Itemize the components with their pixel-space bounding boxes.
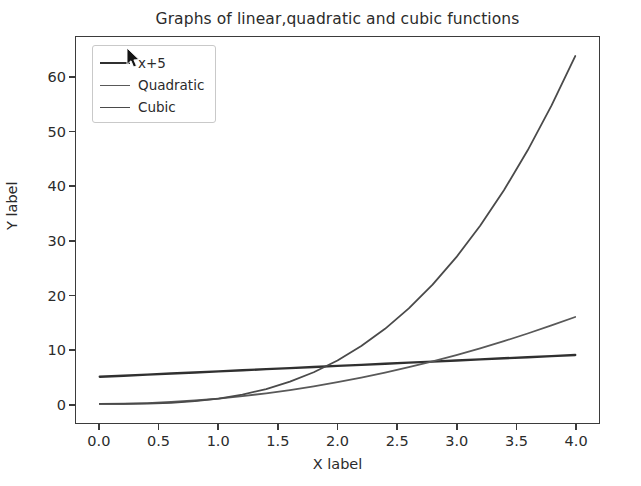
x-tick-label: 4.0 bbox=[546, 433, 606, 449]
legend-label-linear: x+5 bbox=[138, 55, 166, 71]
y-tick-label: 40 bbox=[26, 178, 66, 194]
x-tick-label: 1.5 bbox=[248, 433, 308, 449]
x-tick-label: 2.0 bbox=[308, 433, 368, 449]
x-tick-label: 3.0 bbox=[427, 433, 487, 449]
x-tick-mark bbox=[277, 424, 279, 430]
x-tick-mark bbox=[337, 424, 339, 430]
y-axis-label: Y label bbox=[4, 181, 20, 230]
x-tick-mark bbox=[217, 424, 219, 430]
x-tick-mark bbox=[516, 424, 518, 430]
y-tick-label: 30 bbox=[26, 233, 66, 249]
legend-entry-cubic[interactable]: Cubic bbox=[93, 96, 215, 118]
y-tick-label: 60 bbox=[26, 69, 66, 85]
matplotlib-figure: Graphs of linear,quadratic and cubic fun… bbox=[0, 0, 641, 486]
legend[interactable]: x+5 Quadratic Cubic bbox=[92, 45, 216, 123]
x-tick-mark bbox=[158, 424, 160, 430]
y-tick-label: 20 bbox=[26, 288, 66, 304]
chart-title: Graphs of linear,quadratic and cubic fun… bbox=[75, 10, 600, 28]
x-tick-mark bbox=[456, 424, 458, 430]
legend-label-quadratic: Quadratic bbox=[138, 77, 204, 93]
x-tick-label: 0.5 bbox=[129, 433, 189, 449]
x-tick-label: 0.0 bbox=[69, 433, 129, 449]
legend-label-cubic: Cubic bbox=[138, 99, 176, 115]
legend-swatch-quadratic bbox=[100, 85, 130, 86]
x-tick-label: 1.0 bbox=[188, 433, 248, 449]
x-tick-mark bbox=[575, 424, 577, 430]
series-line bbox=[100, 355, 575, 377]
x-axis-label: X label bbox=[75, 456, 600, 472]
x-tick-label: 3.5 bbox=[486, 433, 546, 449]
legend-swatch-linear bbox=[100, 62, 130, 64]
legend-entry-linear[interactable]: x+5 bbox=[93, 52, 215, 74]
legend-swatch-cubic bbox=[100, 107, 130, 108]
legend-entry-quadratic[interactable]: Quadratic bbox=[93, 74, 215, 96]
y-tick-label: 10 bbox=[26, 342, 66, 358]
x-tick-mark bbox=[396, 424, 398, 430]
y-tick-label: 0 bbox=[26, 397, 66, 413]
y-tick-label: 50 bbox=[26, 124, 66, 140]
x-tick-label: 2.5 bbox=[367, 433, 427, 449]
x-tick-mark bbox=[98, 424, 100, 430]
